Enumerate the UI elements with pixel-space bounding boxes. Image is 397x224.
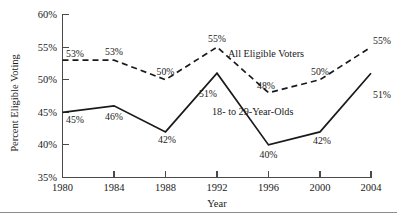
x-tick-labels: 1980 1984 1988 1992 1996 2000 2004 [52, 182, 382, 193]
x-tick-label-1980: 1980 [52, 182, 73, 193]
point-labels-all-eligible-voters: 53% 53% 50% 55% 48% 50% 55% [66, 33, 391, 91]
chart-figure: 60% 55% 50% 45% 40% 35% 1980 1984 1988 1… [0, 0, 397, 224]
x-tick-label-2004: 2004 [361, 182, 383, 193]
figure-bottom-rule [0, 212, 397, 213]
x-axis-title: Year [207, 198, 227, 209]
series-annotation-18-to-29-year-olds: 18- to 29-Year-Olds [212, 106, 293, 117]
y-tick-labels: 60% 55% 50% 45% 40% 35% [38, 9, 58, 183]
x-tick-label-1996: 1996 [258, 182, 279, 193]
point-label-young-1984: 46% [105, 111, 123, 122]
point-label-young-1992: 51% [199, 88, 217, 99]
y-tick-label-50: 50% [38, 74, 58, 85]
point-label-all-1988: 50% [157, 66, 175, 77]
y-tick-label-55: 55% [38, 42, 58, 53]
y-tick-label-40: 40% [38, 139, 58, 150]
point-label-young-1996: 40% [260, 149, 278, 160]
x-tick-label-1992: 1992 [207, 182, 228, 193]
point-label-young-2000: 42% [313, 135, 331, 146]
point-label-all-1984: 53% [105, 46, 123, 57]
point-labels-18-to-29-year-olds: 45% 46% 42% 51% 40% 42% 51% [66, 88, 391, 160]
point-label-young-1988: 42% [158, 134, 176, 145]
point-label-all-1992: 55% [208, 33, 226, 44]
y-axis-title: Percent Eligible Voting [9, 53, 20, 151]
x-tick-label-1988: 1988 [155, 182, 176, 193]
series-annotation-all-eligible-voters: All Eligible Voters [228, 48, 304, 59]
y-tick-label-60: 60% [38, 9, 58, 20]
point-label-all-1996: 48% [257, 80, 275, 91]
point-label-all-2004: 55% [373, 35, 391, 46]
x-tick-label-1984: 1984 [104, 182, 126, 193]
point-label-all-2000: 50% [311, 66, 329, 77]
y-tick-label-45: 45% [38, 107, 58, 118]
point-label-young-1980: 45% [66, 114, 84, 125]
point-label-young-2004: 51% [373, 89, 391, 100]
point-label-all-1980: 53% [66, 48, 84, 59]
x-tick-label-2000: 2000 [310, 182, 331, 193]
line-chart-canvas: 60% 55% 50% 45% 40% 35% 1980 1984 1988 1… [0, 0, 397, 224]
